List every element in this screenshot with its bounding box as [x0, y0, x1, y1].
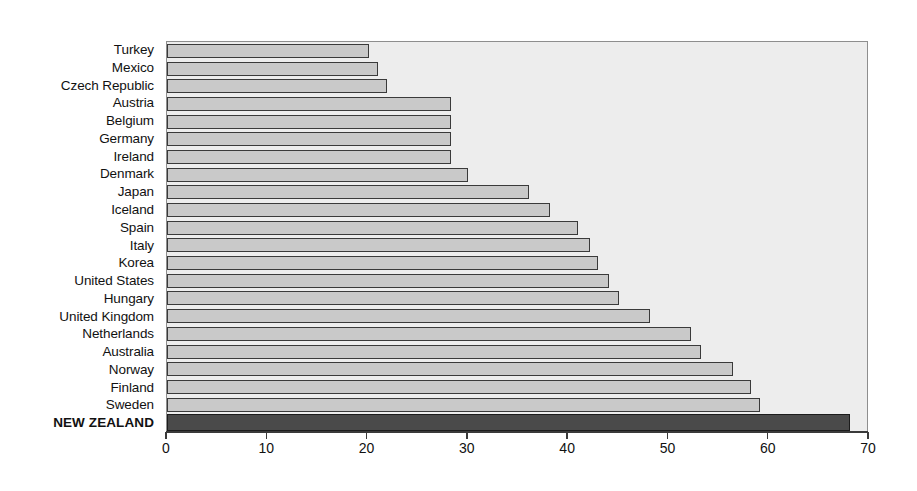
bar-row — [167, 130, 867, 148]
plot-area — [166, 41, 868, 432]
category-label: Germany — [0, 130, 160, 148]
bar — [167, 238, 590, 252]
category-label: Denmark — [0, 165, 160, 183]
x-axis-tick-mark — [767, 432, 769, 439]
bar — [167, 97, 451, 111]
bars-layer — [167, 42, 867, 431]
x-axis-tick-label: 50 — [660, 441, 676, 455]
x-axis-tick-label: 10 — [258, 441, 274, 455]
x-axis-tick-mark — [366, 432, 368, 439]
category-label: Czech Republic — [0, 77, 160, 95]
bar-row — [167, 378, 867, 396]
category-label: Spain — [0, 219, 160, 237]
bar-row — [167, 219, 867, 237]
bar — [167, 203, 550, 217]
bar-row — [167, 290, 867, 308]
category-label: Netherlands — [0, 325, 160, 343]
bar — [167, 150, 451, 164]
bar-row — [167, 42, 867, 60]
bar — [167, 362, 733, 376]
x-axis-tick-mark — [165, 432, 167, 439]
bar-row — [167, 343, 867, 361]
category-label: Finland — [0, 379, 160, 397]
x-axis-line — [166, 431, 868, 433]
category-label: United States — [0, 272, 160, 290]
category-label: Hungary — [0, 290, 160, 308]
x-axis-tick-mark — [466, 432, 468, 439]
bar — [167, 44, 369, 58]
bar-row — [167, 184, 867, 202]
bar-row — [167, 60, 867, 78]
bar-row — [167, 148, 867, 166]
bar-row — [167, 396, 867, 414]
bar-highlight — [167, 414, 850, 431]
category-label: Japan — [0, 183, 160, 201]
category-label: Ireland — [0, 148, 160, 166]
category-label: Italy — [0, 236, 160, 254]
bar — [167, 79, 387, 93]
bar — [167, 221, 578, 235]
bar-row — [167, 254, 867, 272]
bar-row — [167, 360, 867, 378]
bar-row — [167, 325, 867, 343]
x-axis-tick-label: 40 — [559, 441, 575, 455]
category-label: Australia — [0, 343, 160, 361]
category-label: Turkey — [0, 41, 160, 59]
bar — [167, 327, 691, 341]
category-label: NEW ZEALAND — [0, 414, 160, 432]
bar-row — [167, 237, 867, 255]
category-label: Mexico — [0, 59, 160, 77]
category-label: Belgium — [0, 112, 160, 130]
bar — [167, 380, 751, 394]
bar — [167, 115, 451, 129]
bar — [167, 274, 609, 288]
bar-row — [167, 113, 867, 131]
x-axis-tick-mark — [266, 432, 268, 439]
category-label: Norway — [0, 361, 160, 379]
bar-row — [167, 413, 867, 431]
bar — [167, 309, 650, 323]
category-label: Austria — [0, 94, 160, 112]
category-label: Korea — [0, 254, 160, 272]
bar-row — [167, 77, 867, 95]
bar — [167, 256, 598, 270]
category-label: United Kingdom — [0, 307, 160, 325]
x-axis-tick-label: 30 — [459, 441, 475, 455]
category-label: Iceland — [0, 201, 160, 219]
x-axis-tick-label: 20 — [359, 441, 375, 455]
bar — [167, 132, 451, 146]
bar-row — [167, 166, 867, 184]
bar — [167, 398, 760, 412]
bar-row — [167, 272, 867, 290]
x-axis-tick-mark — [667, 432, 669, 439]
bar — [167, 62, 378, 76]
bar — [167, 168, 468, 182]
bar-row — [167, 201, 867, 219]
x-axis-tick-label: 0 — [162, 441, 170, 455]
category-label: Sweden — [0, 396, 160, 414]
category-axis-labels: TurkeyMexicoCzech RepublicAustriaBelgium… — [0, 41, 160, 432]
bar — [167, 345, 701, 359]
bar-row — [167, 95, 867, 113]
bar-chart: TurkeyMexicoCzech RepublicAustriaBelgium… — [0, 0, 917, 491]
x-axis-tick-mark — [867, 432, 869, 439]
x-axis-tick-mark — [566, 432, 568, 439]
bar — [167, 185, 529, 199]
x-axis-tick-label: 70 — [860, 441, 876, 455]
x-axis-tick-label: 60 — [760, 441, 776, 455]
bar — [167, 291, 619, 305]
bar-row — [167, 307, 867, 325]
